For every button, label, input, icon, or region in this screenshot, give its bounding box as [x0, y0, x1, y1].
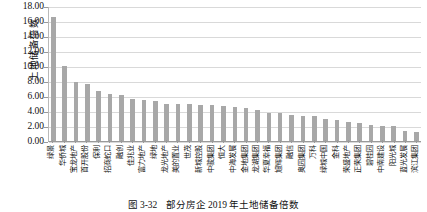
x-axis-tick-label: 首开股份 [83, 145, 91, 173]
x-axis-label-slot: 滨江集团 [414, 143, 419, 196]
x-axis-tick-mark [200, 140, 201, 143]
x-axis-tick-label: 中骏集团 [208, 145, 216, 173]
x-axis-label-slot: 绿地 [152, 143, 157, 196]
plot-area [48, 7, 421, 142]
x-axis-tick-mark [155, 140, 156, 143]
bar [289, 115, 294, 141]
bar [187, 104, 192, 141]
x-axis-tick-label: 新城控股 [196, 145, 204, 173]
x-axis-label-slot: 招商蛇口 [107, 143, 112, 196]
x-axis-tick-label: 龙光地产 [162, 145, 170, 173]
bar [301, 116, 306, 141]
x-axis-label-slot: 富力地产 [141, 143, 146, 196]
x-axis-tick-label: 荣盛地产 [344, 145, 352, 173]
x-axis-label-slot: 世茂 [187, 143, 192, 196]
x-axis-label-slot: 龙湖集团 [255, 143, 260, 196]
y-axis-tick-label: 8.00 [12, 77, 44, 87]
x-axis-tick-label: 金地集团 [242, 145, 250, 173]
x-axis-label-slot: 华夏幸福 [266, 143, 271, 196]
x-axis-label-slot: 融信 [289, 143, 294, 196]
x-axis-tick-label: 绿地 [151, 145, 159, 159]
x-axis-tick-label: 华侨城 [60, 145, 68, 166]
x-axis-label-slot: 旭辉集团 [278, 143, 283, 196]
bar [380, 126, 385, 141]
y-axis-tick-label: 12.00 [12, 47, 44, 57]
x-axis-label-slot: 恒大 [221, 143, 226, 196]
x-axis-label-slot: 融创 [118, 143, 123, 196]
x-axis-tick-label: 龙湖集团 [253, 145, 261, 173]
x-axis-tick-label: 招商蛇口 [105, 145, 113, 173]
bar [278, 113, 283, 141]
x-axis-label-slot: 中骏集团 [209, 143, 214, 196]
x-axis-tick-mark [132, 140, 133, 143]
x-axis-tick-mark [337, 140, 338, 143]
x-axis-label-slot: 首开股份 [84, 143, 89, 196]
x-axis-tick-mark [280, 140, 281, 143]
x-axis-tick-label: 佳兆业 [128, 145, 136, 166]
caption-number: 图 3-32 [128, 200, 158, 210]
x-axis-tick-mark [121, 140, 122, 143]
bar [130, 99, 135, 141]
y-axis-tick-label: 6.00 [12, 92, 44, 102]
bar-series [49, 7, 421, 141]
x-axis-tick-label: 华夏幸福 [265, 145, 273, 173]
bar [267, 113, 272, 142]
x-axis-tick-label: 世茂 [185, 145, 193, 159]
x-axis-tick-mark [189, 140, 190, 143]
x-axis-tick-mark [64, 140, 65, 143]
x-axis-tick-mark [109, 140, 110, 143]
x-axis-tick-label: 富力地产 [140, 145, 148, 173]
x-axis-tick-mark [382, 140, 383, 143]
x-axis-tick-mark [86, 140, 87, 143]
x-axis-tick-label: 宝龙地产 [71, 145, 79, 173]
x-axis-tick-label: 蓝光发展 [401, 145, 409, 173]
x-axis-label-slot: 保利 [96, 143, 101, 196]
x-axis-label-slot: 华侨城 [61, 143, 66, 196]
x-axis-label-slot: 碧桂园 [369, 143, 374, 196]
x-axis-tick-label: 金科 [333, 145, 341, 159]
x-axis-tick-mark [348, 140, 349, 143]
y-axis-tick-label: 0.00 [12, 137, 44, 147]
x-axis-label-slot: 中海发展 [232, 143, 237, 196]
x-axis-tick-labels: 绿景华侨城宝龙地产首开股份保利招商蛇口融创佳兆业富力地产绿地龙光地产美的置业世茂… [48, 143, 421, 196]
x-axis-tick-label: 碧桂园 [367, 145, 375, 166]
x-axis-tick-mark [143, 140, 144, 143]
x-axis-label-slot: 万科 [312, 143, 317, 196]
x-axis-tick-label: 奥园集团 [299, 145, 307, 173]
x-axis-tick-label: 绿城中国 [322, 145, 330, 173]
x-axis-tick-label: 旭辉集团 [276, 145, 284, 173]
y-axis-tick-labels: 18.0016.0014.0012.0010.008.006.004.002.0… [8, 7, 44, 142]
x-axis-label-slot: 金地集团 [243, 143, 248, 196]
x-axis-tick-label: 万科 [310, 145, 318, 159]
bar [153, 101, 158, 141]
x-axis-tick-mark [303, 140, 304, 143]
x-axis-tick-mark [166, 140, 167, 143]
x-axis-tick-mark [359, 140, 360, 143]
x-axis-tick-mark [75, 140, 76, 143]
y-axis-tick-label: 14.00 [12, 32, 44, 42]
x-axis-label-slot: 荣盛地产 [346, 143, 351, 196]
x-axis-label-slot: 蓝光发展 [403, 143, 408, 196]
y-axis-tick-label: 4.00 [12, 107, 44, 117]
x-axis-tick-mark [223, 140, 224, 143]
bar [164, 104, 169, 142]
bar [210, 105, 215, 141]
bar [346, 122, 351, 141]
x-axis-tick-label: 融创 [117, 145, 125, 159]
x-axis-tick-label: 阳光城 [390, 145, 398, 166]
x-axis-tick-mark [98, 140, 99, 143]
x-axis-tick-mark [234, 140, 235, 143]
x-axis-tick-label: 正荣集团 [356, 145, 364, 173]
bar [323, 119, 328, 142]
bar [391, 126, 396, 141]
caption-text: 部分房企 2019 年土地储备倍数 [166, 200, 300, 210]
x-axis-tick-mark [394, 140, 395, 143]
x-axis-tick-mark [314, 140, 315, 143]
bar [142, 100, 147, 141]
bar [62, 66, 67, 141]
x-axis-label-slot: 新城控股 [198, 143, 203, 196]
x-axis-tick-mark [212, 140, 213, 143]
x-axis-label-slot: 绿景 [50, 143, 55, 196]
x-axis-tick-label: 恒大 [219, 145, 227, 159]
x-axis-tick-label: 中海发展 [231, 145, 239, 173]
